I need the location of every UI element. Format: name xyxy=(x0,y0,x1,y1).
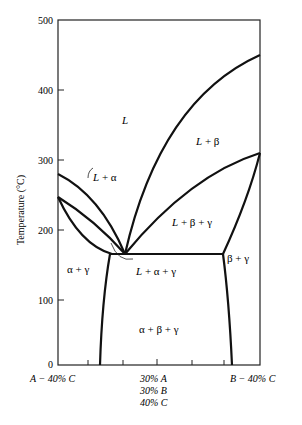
ytick-100: 100 xyxy=(38,295,53,306)
ytick-300: 300 xyxy=(38,155,53,166)
solvus-beta xyxy=(223,254,232,365)
boundary-beta-gamma xyxy=(223,153,260,254)
region-alpha-beta-gamma: α + β + γ xyxy=(139,323,179,335)
region-L-alpha: L + α xyxy=(92,171,117,183)
region-L-beta: L + β xyxy=(195,135,220,147)
phase-diagram: 500 400 300 200 100 0 Temperature (°C) A… xyxy=(0,0,302,425)
x-left-label: A − 40% C xyxy=(29,373,76,384)
ytick-0: 0 xyxy=(48,359,53,370)
y-ticks xyxy=(58,90,64,300)
ytick-500: 500 xyxy=(38,15,53,26)
boundary-left-mid xyxy=(58,197,125,254)
solvus-alpha xyxy=(100,254,110,365)
x-mid-label-b: 30% B xyxy=(139,385,167,396)
x-mid-label-c: 40% C xyxy=(140,397,168,408)
x-right-label: B − 40% C xyxy=(230,373,276,384)
region-L-alpha-gamma: L + α + γ xyxy=(135,265,176,277)
y-axis-label: Temperature (°C) xyxy=(15,175,27,245)
region-beta-gamma: β + γ xyxy=(227,252,249,264)
solvus-left xyxy=(58,197,112,254)
boundary-L-beta-gamma xyxy=(125,153,260,254)
y-tick-labels: 500 400 300 200 100 0 xyxy=(38,15,53,370)
ytick-400: 400 xyxy=(38,85,53,96)
region-alpha-gamma: α + γ xyxy=(67,263,89,275)
region-L-beta-gamma: L + β + γ xyxy=(171,216,212,228)
ytick-200: 200 xyxy=(38,225,53,236)
region-L: L xyxy=(121,114,128,126)
phase-boundaries xyxy=(58,55,260,365)
x-mid-label-a: 30% A xyxy=(139,373,168,384)
x-ticks xyxy=(88,359,224,365)
